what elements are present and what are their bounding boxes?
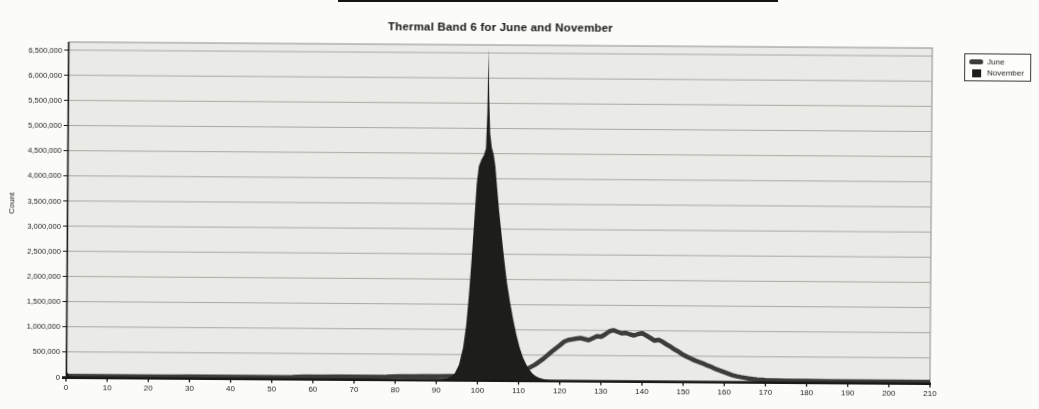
legend-label-june: June (987, 57, 1004, 66)
y-tick-label: 3,000,000 (27, 221, 61, 230)
x-tick-label: 190 (841, 388, 855, 397)
x-tick-label: 40 (226, 384, 236, 393)
x-tick-label: 70 (349, 385, 359, 394)
june-line-marker (969, 60, 983, 65)
x-tick-label: 30 (185, 384, 195, 393)
chart-canvas: 0500,0001,000,0001,500,0002,000,0002,500… (0, 0, 1039, 409)
x-tick-label: 60 (308, 385, 318, 394)
y-tick-label: 2,000,000 (27, 272, 61, 281)
x-tick-label: 120 (553, 386, 567, 395)
y-tick-label: 2,500,000 (27, 247, 61, 256)
x-tick-label: 200 (882, 389, 896, 398)
y-tick-label: 4,500,000 (28, 146, 62, 155)
x-tick-label: 50 (267, 384, 277, 393)
y-tick-label: 4,000,000 (28, 171, 62, 180)
x-tick-label: 10 (103, 383, 113, 392)
x-tick-label: 90 (432, 386, 442, 395)
y-tick-label: 5,000,000 (28, 121, 62, 130)
x-tick-label: 0 (64, 383, 69, 392)
y-tick-label: 3,500,000 (27, 196, 61, 205)
y-tick-label: 6,500,000 (28, 45, 62, 54)
scanned-page: { "style": { "paper": "#fbfbf9", "plot_b… (0, 0, 1039, 409)
chart-figure: Thermal Band 6 for June and November Cou… (0, 0, 1039, 409)
x-tick-label: 170 (759, 388, 773, 397)
y-tick-label: 0 (56, 373, 60, 382)
y-tick-label: 5,500,000 (28, 96, 62, 105)
x-tick-label: 150 (676, 387, 690, 396)
x-tick-label: 20 (144, 384, 154, 393)
y-tick-label: 1,000,000 (27, 322, 61, 331)
legend-item-june: June (969, 57, 1024, 66)
legend: June November (964, 53, 1031, 81)
legend-item-november: November (969, 68, 1024, 77)
y-tick-label: 500,000 (33, 347, 61, 356)
x-tick-label: 130 (594, 387, 608, 396)
x-tick-label: 80 (391, 385, 401, 394)
x-tick-label: 160 (717, 388, 731, 397)
november-square-marker (972, 69, 981, 77)
y-tick-label: 1,500,000 (27, 297, 61, 306)
x-tick-label: 180 (800, 388, 814, 397)
x-tick-label: 100 (471, 386, 485, 395)
x-tick-label: 210 (923, 389, 937, 398)
legend-label-november: November (987, 68, 1024, 77)
y-tick-label: 6,000,000 (28, 71, 62, 80)
x-tick-label: 140 (635, 387, 649, 396)
x-tick-label: 110 (512, 386, 525, 395)
